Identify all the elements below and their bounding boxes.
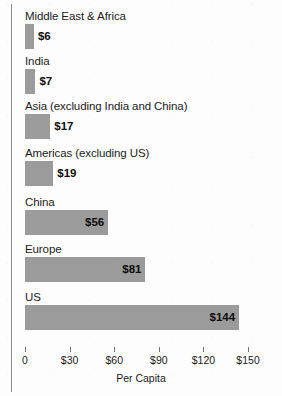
x-axis-tick-mark [203,347,204,352]
bar-chart-figure: Middle East & Africa$6India$7Asia (exclu… [0,0,282,396]
bar-category-label: Asia (excluding India and China) [25,100,187,113]
bar-category-label: Middle East & Africa [25,10,126,23]
x-axis-title: Per Capita [0,372,282,384]
bar-value-label: $17 [54,120,73,133]
bar-category-label: Europe [25,243,61,256]
bar-value-label: $7 [39,75,52,88]
x-axis-tick-label: 0 [22,354,28,366]
bar-category-label: US [25,291,41,304]
bar-category-label: India [25,55,49,68]
plot-area: Middle East & Africa$6India$7Asia (exclu… [0,0,282,345]
bar-value-label: $6 [38,30,51,43]
bar-value-label: $81 [122,263,141,276]
x-axis-tick-label: $150 [236,354,259,366]
x-axis-tick-mark [114,347,115,352]
bar-category-label: China [25,196,55,209]
bar [25,24,34,49]
bar [25,305,239,330]
bar-category-label: Americas (excluding US) [25,147,149,160]
bar [25,114,50,139]
bar-value-label: $19 [57,167,76,180]
x-axis-tick-mark [159,347,160,352]
x-axis-tick-label: $30 [61,354,79,366]
x-axis-tick-mark [70,347,71,352]
bar-value-label: $56 [85,216,104,229]
x-axis-tick-label: $60 [105,354,123,366]
x-axis-tick-label: $120 [192,354,215,366]
x-axis-tick-mark [25,347,26,352]
x-axis: 0$30$60$90$120$150 [0,345,282,375]
bar [25,161,53,186]
x-axis-tick-label: $90 [150,354,168,366]
bar-value-label: $144 [210,311,236,324]
x-axis-tick-mark [248,347,249,352]
bar [25,69,35,94]
